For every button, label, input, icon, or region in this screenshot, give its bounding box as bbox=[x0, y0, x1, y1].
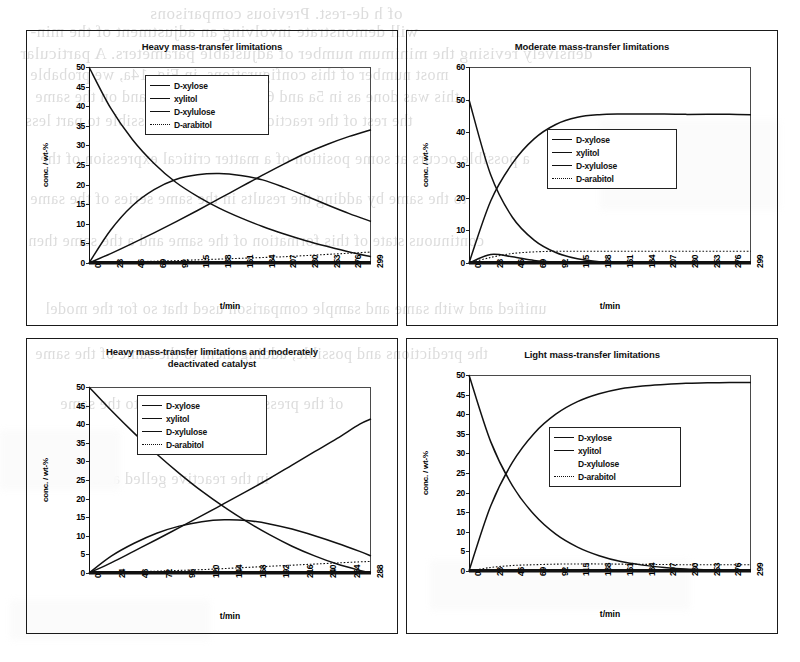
axis-baseline bbox=[89, 572, 371, 575]
legend-row: D-arabitol bbox=[150, 118, 262, 131]
legend-row: xylitol bbox=[554, 444, 674, 457]
legend-key-xylitol bbox=[554, 450, 574, 451]
panel-light-mass-transfer-limitations: Light mass-transfer limitations conc. / … bbox=[406, 338, 778, 634]
series-line-d-arabitol bbox=[89, 561, 371, 573]
figure-panel-grid: Heavy mass-transfer limitations conc. / … bbox=[26, 30, 778, 650]
legend-row: D-arabitol bbox=[552, 172, 670, 185]
legend-label: D-xylose bbox=[174, 81, 208, 91]
legend-key-d-arabitol bbox=[552, 178, 572, 179]
chart-area: conc. / wt-%0510152025303540455002346699… bbox=[27, 31, 397, 325]
panel-heavy-mass-transfer-deactivated-catalyst: Heavy mass-transfer limitations and mode… bbox=[26, 338, 398, 634]
series-canvas bbox=[27, 339, 399, 635]
series-line-d-xylulose bbox=[89, 174, 371, 263]
legend-key-d-arabitol bbox=[554, 476, 574, 477]
legend-key-xylitol bbox=[142, 418, 162, 419]
legend-key-d-xylose bbox=[554, 437, 574, 438]
legend-key-d-arabitol bbox=[150, 124, 170, 125]
chart-legend: D-xylosexylitolD-xyluloseD-arabitol bbox=[137, 395, 267, 455]
legend-label: D-arabitol bbox=[174, 120, 212, 130]
legend-row: D-xylose bbox=[552, 133, 670, 146]
legend-key-d-arabitol bbox=[142, 444, 162, 445]
axis-baseline bbox=[469, 570, 751, 573]
bleedthrough-text-line: of h de-rest. Previous comparisons bbox=[150, 4, 403, 24]
legend-label: D-xylulose bbox=[576, 161, 617, 171]
legend-label: xylitol bbox=[576, 148, 599, 158]
legend-row: D-xylose bbox=[150, 79, 262, 92]
legend-label: D-xylose bbox=[166, 401, 200, 411]
chart-area: conc. / wt-%0510152025303540455002448729… bbox=[27, 339, 397, 633]
axis-baseline bbox=[469, 262, 751, 265]
legend-key-d-xylulose bbox=[142, 431, 162, 432]
legend-key-d-xylose bbox=[142, 405, 162, 406]
legend-key-xylitol bbox=[552, 152, 572, 153]
legend-label: D-xylulose bbox=[166, 427, 207, 437]
legend-label: D-xylulose bbox=[174, 107, 215, 117]
chart-legend: D-xylosexylitolD-xyluloseD-arabitol bbox=[549, 427, 681, 487]
legend-label: D-arabitol bbox=[578, 472, 616, 482]
chart-legend: D-xylosexylitolD-xyluloseD-arabitol bbox=[145, 75, 269, 135]
legend-row: xylitol bbox=[552, 146, 670, 159]
legend-label: xylitol bbox=[578, 446, 601, 456]
legend-label: xylitol bbox=[174, 94, 197, 104]
legend-row: D-xylulose bbox=[554, 457, 674, 470]
panel-heavy-mass-transfer-limitations: Heavy mass-transfer limitations conc. / … bbox=[26, 30, 398, 326]
legend-row: D-xylose bbox=[554, 431, 674, 444]
legend-label: xylitol bbox=[166, 414, 189, 424]
legend-key-d-xylulose bbox=[554, 463, 574, 464]
chart-legend: D-xylosexylitolD-xyluloseD-arabitol bbox=[547, 129, 677, 189]
legend-label: D-xylose bbox=[578, 433, 612, 443]
legend-key-d-xylose bbox=[150, 85, 170, 86]
legend-row: D-xylulose bbox=[150, 105, 262, 118]
axis-baseline bbox=[89, 262, 371, 265]
legend-row: xylitol bbox=[150, 92, 262, 105]
series-canvas bbox=[407, 339, 779, 635]
series-line-d-arabitol bbox=[89, 252, 371, 263]
legend-key-d-xylose bbox=[552, 139, 572, 140]
legend-key-xylitol bbox=[150, 98, 170, 99]
legend-label: D-xylulose bbox=[578, 459, 619, 469]
chart-area: conc. / wt-%0510152025303540455002346699… bbox=[407, 339, 777, 633]
legend-row: D-arabitol bbox=[142, 438, 260, 451]
legend-row: D-xylose bbox=[142, 399, 260, 412]
legend-label: D-arabitol bbox=[576, 174, 614, 184]
series-line-xylitol bbox=[89, 130, 371, 263]
panel-moderate-mass-transfer-limitations: Moderate mass-transfer limitations conc.… bbox=[406, 30, 778, 326]
legend-key-d-xylulose bbox=[150, 111, 170, 112]
legend-row: xylitol bbox=[142, 412, 260, 425]
legend-row: D-xylulose bbox=[142, 425, 260, 438]
legend-row: D-xylulose bbox=[552, 159, 670, 172]
legend-label: D-xylose bbox=[576, 135, 610, 145]
legend-label: D-arabitol bbox=[166, 440, 204, 450]
legend-row: D-arabitol bbox=[554, 470, 674, 483]
legend-key-d-xylulose bbox=[552, 165, 572, 166]
chart-area: conc. / wt-%0102030405060023466992115138… bbox=[407, 31, 777, 325]
series-line-d-xylulose bbox=[89, 520, 371, 573]
